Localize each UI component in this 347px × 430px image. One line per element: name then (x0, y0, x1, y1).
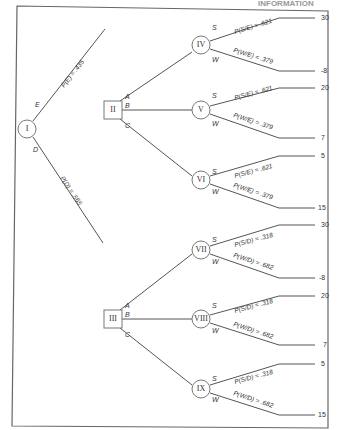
payoff-W: 7 (321, 134, 325, 141)
chance-subtree-VIII: S W P(S/D) = .318 P(W/D) = .682 20 7 VII… (192, 292, 329, 348)
prob-S: P(S/E) = .621 (233, 84, 273, 102)
branch-label-W: W (212, 327, 220, 334)
branch-label-S: S (212, 24, 217, 31)
chance-subtree-VII: S W P(S/D) = .318 P(W/D) = .682 30 -8 VI… (192, 221, 329, 281)
prob-S: P(S/D) = .318 (233, 368, 274, 386)
branch-label-W: W (212, 120, 220, 127)
branch-label-W: W (212, 188, 220, 195)
branch-label-II-A: A (124, 93, 130, 100)
prob-W: P(W/D) = .682 (232, 320, 274, 341)
node-label-III: III (109, 314, 117, 323)
branch-label-E: E (35, 101, 40, 108)
payoff-W: 7 (323, 341, 327, 348)
node-label-II: II (110, 105, 116, 114)
payoff-S: 30 (321, 14, 329, 21)
payoff-S: 5 (321, 360, 325, 367)
payoff-W: -8 (321, 67, 327, 74)
node-label-VII: VII (195, 245, 206, 254)
payoff-S: 5 (321, 152, 325, 159)
edge-III-VII (120, 254, 192, 310)
branch-label-S: S (212, 92, 217, 99)
branch-label-S: S (212, 168, 217, 175)
node-label-IV: IV (197, 40, 206, 49)
branch-label-III-A: A (124, 302, 130, 309)
branch-label-III-B: B (125, 311, 130, 318)
payoff-S: 20 (321, 84, 329, 91)
chance-subtree-IV: S W P(S/E) = .621 P(W/E) = .379 30 -8 IV (192, 14, 329, 74)
chance-subtree-VI: S W P(S/E) = .621 P(W/E) = .379 5 15 VI (192, 152, 326, 211)
branch-label-D: D (33, 146, 38, 153)
payoff-W: 15 (318, 411, 326, 418)
payoff-W: -8 (319, 274, 325, 281)
prob-D: P(D) = .565 (58, 175, 84, 207)
prob-S: P(S/D) = .318 (233, 297, 274, 315)
edge-III-IX (120, 328, 192, 385)
prob-S: P(S/E) = .621 (233, 162, 273, 180)
decision-tree: INFORMATION E D P(E) = .435 P(D) = .565 … (0, 0, 347, 430)
chance-subtree-IX: S W P(S/D) = .318 P(W/D) = .682 5 15 IX (192, 360, 326, 418)
branch-label-W: W (212, 56, 220, 63)
branch-label-S: S (212, 236, 217, 243)
node-label-IX: IX (197, 384, 206, 393)
branch-label-S: S (212, 302, 217, 309)
branch-label-II-C: C (125, 122, 131, 129)
header-title: INFORMATION (258, 0, 314, 8)
prob-S: P(S/E) = .621 (233, 17, 273, 36)
node-label-V: V (198, 105, 204, 114)
prob-E: P(E) = .435 (59, 58, 86, 89)
payoff-S: 20 (321, 292, 329, 299)
branch-label-S: S (212, 375, 217, 382)
node-label-VI: VI (197, 175, 206, 184)
edge-II-VI (120, 119, 192, 176)
prob-S: P(S/D) = .318 (233, 231, 274, 249)
branch-label-II-B: B (125, 102, 130, 109)
branch-label-III-C: C (125, 331, 131, 338)
payoff-W: 15 (318, 204, 326, 211)
branch-label-W: W (212, 396, 220, 403)
node-label-I: I (26, 124, 29, 133)
payoff-S: 30 (321, 221, 329, 228)
edge-II-IV (120, 52, 192, 101)
branch-label-W: W (212, 258, 220, 265)
node-label-VIII: VIII (194, 314, 208, 323)
chance-subtree-V: S W P(S/E) = .621 P(W/E) = .379 20 7 V (192, 84, 329, 141)
diagram-frame (12, 6, 328, 428)
